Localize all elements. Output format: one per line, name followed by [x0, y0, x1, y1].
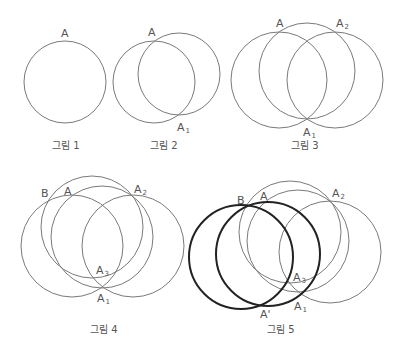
point-label: A: [64, 185, 72, 198]
figure-4: BAA2A3A1그림 4: [21, 176, 184, 335]
point-label: A2: [336, 17, 349, 31]
point-label: B: [41, 187, 49, 200]
construction-circle: [279, 201, 381, 303]
figure-caption: 그림 5: [267, 324, 295, 335]
point-label: A': [260, 308, 271, 321]
point-label-subscript: 1: [312, 132, 316, 140]
point-label-subscript: 3: [302, 277, 306, 285]
point-label: A3: [293, 271, 306, 285]
point-label-subscript: 1: [303, 306, 307, 314]
point-label: A3: [96, 264, 109, 278]
point-label: A1: [177, 121, 190, 135]
construction-circle: [259, 23, 355, 119]
figure-caption: 그림 3: [291, 140, 319, 151]
figure-2: AA1그림 2: [113, 26, 220, 151]
point-label: A1: [294, 300, 307, 314]
figure-3: AA2A1그림 3: [231, 17, 383, 151]
point-label-subscript: 2: [341, 193, 345, 201]
figure-caption: 그림 4: [90, 324, 118, 335]
point-label-subscript: 3: [105, 270, 109, 278]
point-label: A: [148, 26, 156, 39]
point-label: A1: [97, 292, 110, 306]
figure-1: A그림 1: [24, 27, 106, 151]
point-label: A: [276, 17, 284, 30]
point-label: A: [61, 27, 69, 40]
point-label: A1: [303, 126, 316, 140]
construction-circle: [287, 32, 383, 128]
point-label: A: [260, 190, 268, 203]
construction-circle: [189, 205, 293, 309]
construction-circle: [138, 33, 220, 115]
construction-circle: [41, 176, 143, 278]
point-label-subscript: 2: [143, 189, 147, 197]
point-label: A2: [332, 187, 345, 201]
construction-circle: [82, 195, 184, 297]
point-label-subscript: 1: [186, 127, 190, 135]
point-label-subscript: 2: [345, 23, 349, 31]
construction-circle: [231, 32, 327, 128]
point-label: A2: [134, 183, 147, 197]
construction-circle: [216, 202, 320, 306]
figure-caption: 그림 2: [150, 140, 178, 151]
point-label: B: [237, 194, 245, 207]
construction-circle: [113, 41, 195, 123]
point-label-subscript: 1: [106, 298, 110, 306]
construction-circle: [24, 41, 106, 123]
figure-5: BAA2A3A1A'그림 5: [189, 181, 381, 335]
construction-circle: [21, 195, 123, 297]
figure-caption: 그림 1: [52, 140, 80, 151]
circle-construction-diagram: A그림 1AA1그림 2AA2A1그림 3BAA2A3A1그림 4BAA2A3A…: [0, 0, 403, 351]
